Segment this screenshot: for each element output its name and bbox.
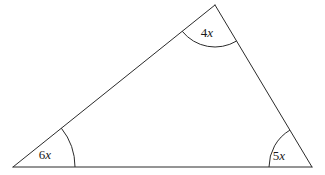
angle-label-apex: 4x	[201, 25, 214, 40]
triangle-figure: 6x 4x 5x	[0, 0, 325, 175]
triangle-diagram-svg: 6x 4x 5x	[0, 0, 325, 175]
angle-label-bottom-right: 5x	[273, 148, 286, 163]
angle-label-bottom-left: 6x	[39, 147, 52, 162]
